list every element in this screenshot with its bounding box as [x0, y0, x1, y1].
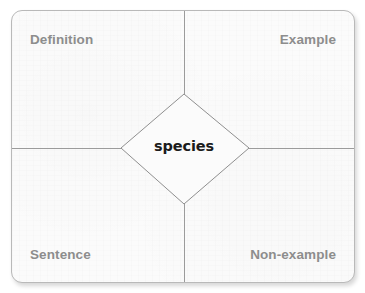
quadrant-label-sentence: Sentence — [30, 247, 91, 262]
quadrant-label-example: Example — [280, 32, 336, 47]
frayer-model-diagram: Definition Example Sentence Non-example … — [0, 0, 365, 293]
frayer-card: Definition Example Sentence Non-example … — [11, 10, 355, 283]
quadrant-label-definition: Definition — [30, 32, 93, 47]
quadrant-label-non-example: Non-example — [250, 247, 336, 262]
center-term-text: species — [121, 138, 247, 154]
